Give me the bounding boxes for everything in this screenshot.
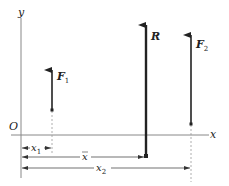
force-f2-point	[190, 123, 193, 126]
resultant-force-diagram: y x O F1 R F2 x1 x x2	[0, 0, 229, 186]
diagram-canvas: y x O F1 R F2 x1 x x2	[0, 0, 229, 186]
resultant-r-point	[144, 154, 148, 158]
force-f1-label: F1	[56, 70, 69, 85]
x-axis-label: x	[210, 128, 217, 141]
origin-label: O	[9, 120, 18, 133]
dimension-x2-label: x2	[96, 162, 106, 176]
resultant-r-label: R	[150, 30, 160, 43]
force-f2-label: F2	[195, 38, 208, 53]
dimension-xbar-label: x	[82, 151, 88, 162]
y-axis-label: y	[17, 6, 25, 19]
dimension-x1-label: x1	[31, 142, 41, 156]
force-f1-point	[51, 109, 54, 112]
